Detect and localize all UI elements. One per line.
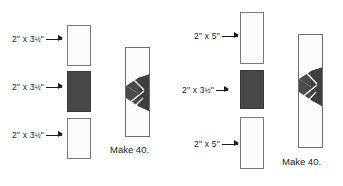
strip-label-row-right-2: 2" x 3½" (182, 85, 228, 95)
make-caption-left: Make 40. (110, 144, 149, 155)
strip-label-row-left-3: 2" x 3½" (12, 130, 62, 140)
assembled-block-right (298, 34, 323, 148)
strip-label-left-3: 2" x 3½" (12, 130, 44, 140)
strip-label-right-1: 2" x 5" (194, 31, 220, 41)
strip-label-row-left-1: 2" x 3½" (12, 34, 62, 44)
strip-label-right-3: 2" x 5" (194, 139, 220, 149)
fabric-strip-right-2 (240, 70, 264, 109)
panel-right: 2" x 5" 2" x 3½" 2" x 5" (172, 0, 343, 186)
block-motif-left (126, 48, 150, 137)
strip-label-left-1: 2" x 3½" (12, 34, 44, 44)
strip-label-right-2: 2" x 3½" (182, 85, 214, 95)
strip-label-row-left-2: 2" x 3½" (12, 82, 62, 92)
panel-left: 2" x 3½" 2" x 3½" 2" x 3½" (0, 0, 171, 186)
strip-label-row-right-3: 2" x 5" (194, 139, 238, 149)
pointer-arrow-icon-right-1 (222, 36, 238, 37)
fabric-strip-right-1 (240, 12, 264, 64)
pointer-arrow-icon-left-1 (46, 39, 62, 40)
fabric-strip-left-1 (67, 25, 91, 66)
strip-label-left-2: 2" x 3½" (12, 82, 44, 92)
pointer-arrow-icon-right-3 (222, 144, 238, 145)
pointer-arrow-icon-right-2 (216, 90, 228, 91)
fabric-strip-left-3 (67, 118, 91, 159)
pointer-arrow-icon-left-2 (46, 87, 62, 88)
make-caption-right: Make 40. (282, 156, 321, 167)
strip-label-row-right-1: 2" x 5" (194, 31, 238, 41)
block-motif-right (299, 35, 323, 148)
assembled-block-left (125, 47, 150, 137)
fabric-strip-left-2 (67, 71, 91, 112)
fabric-strip-right-3 (240, 117, 264, 169)
quilt-instruction-diagram: 2" x 3½" 2" x 3½" 2" x 3½" (0, 0, 343, 186)
pointer-arrow-icon-left-3 (46, 135, 62, 136)
